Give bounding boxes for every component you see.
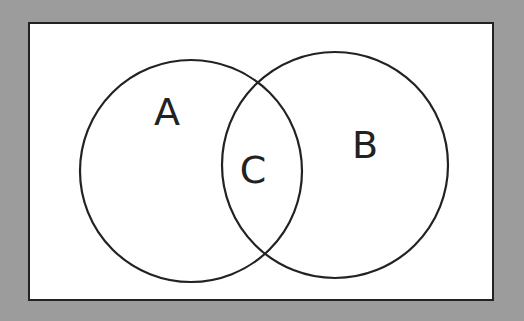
- venn-diagram: A B C: [0, 0, 524, 321]
- set-a-circle: [80, 60, 302, 282]
- intersection-label: C: [240, 148, 267, 192]
- set-a-label: A: [154, 90, 180, 134]
- set-b-label: B: [352, 123, 378, 167]
